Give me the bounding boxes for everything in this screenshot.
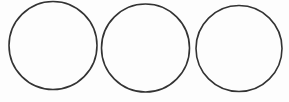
circle-2 — [102, 4, 190, 92]
circle-3 — [196, 6, 282, 92]
circle-1 — [9, 2, 97, 90]
diagram-canvas — [0, 0, 289, 102]
